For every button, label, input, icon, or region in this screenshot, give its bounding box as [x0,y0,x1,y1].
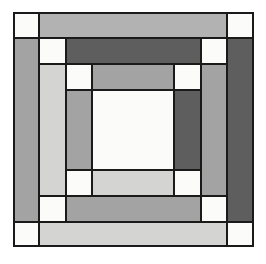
patch-bottom-bar [39,222,227,247]
patch-r3-top-bar [92,64,174,90]
patch-r2-top-bar [66,38,201,64]
patch-r3-left-bar [66,90,92,170]
patch-r2-corner-top-right [201,38,227,64]
patch-r3-corner-bottom-left [66,170,92,196]
patch-corner-top-left [13,12,39,38]
patch-r3-corner-top-right [174,64,201,90]
quilt-block-canvas [0,0,266,264]
patch-r2-corner-bottom-left [39,196,66,222]
patch-r3-corner-bottom-right [174,170,201,196]
patch-corner-top-right [227,12,254,38]
patch-r3-corner-top-left [66,64,92,90]
patch-left-bar [13,38,39,222]
patch-r2-corner-top-left [39,38,66,64]
quilt-block [13,12,254,247]
patch-r2-bottom-bar [66,196,201,222]
patch-r2-right-bar [201,64,227,196]
patch-right-bar [227,38,254,222]
patch-r3-bottom-bar [92,170,174,196]
patch-r3-right-bar [174,90,201,170]
patch-r2-corner-bottom-right [201,196,227,222]
patch-corner-bottom-left [13,222,39,247]
patch-top-bar [39,12,227,38]
patch-r2-left-bar [39,64,66,196]
patch-corner-bottom-right [227,222,254,247]
patch-center [92,90,174,170]
